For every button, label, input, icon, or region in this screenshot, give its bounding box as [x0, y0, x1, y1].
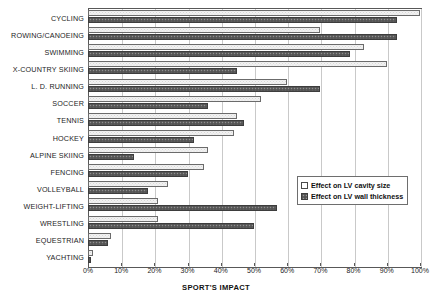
bar-cavity-size: [88, 96, 261, 102]
bar-cavity-size: [88, 130, 234, 136]
bar-wall-thickness: [88, 86, 320, 92]
bar-cavity-size: [88, 27, 320, 33]
category-label: VOLLEYBALL: [37, 184, 84, 193]
bar-wall-thickness: [88, 223, 254, 229]
bar-wall-thickness: [88, 120, 244, 126]
x-tick-label: 30%: [181, 267, 195, 274]
bar-wall-thickness: [88, 205, 277, 211]
bar-cavity-size: [88, 147, 208, 153]
bar-row: [88, 232, 420, 249]
x-tick-label: 60%: [280, 267, 294, 274]
x-tick-label: 100%: [411, 267, 429, 274]
bar-row: [88, 215, 420, 232]
bar-cavity-size: [88, 198, 158, 204]
x-tick-label: 70%: [313, 267, 327, 274]
bar-wall-thickness: [88, 137, 194, 143]
x-tick-label: 40%: [214, 267, 228, 274]
bar-cavity-size: [88, 61, 387, 67]
bar-row: [88, 26, 420, 43]
legend-item-wall: Effect on LV wall thickness: [301, 191, 403, 201]
bar-chart: CYCLINGROWING/CANOEINGSWIMMINGX-COUNTRY …: [0, 0, 432, 302]
bar-cavity-size: [88, 250, 93, 256]
x-tick-mark: [254, 263, 255, 266]
x-axis-tick-labels: 0%10%20%30%40%50%60%70%80%90%100%: [0, 267, 432, 279]
x-tick-label: 0%: [83, 267, 93, 274]
category-label: YACHTING: [46, 253, 84, 262]
category-label: ALPINE SKIING: [30, 150, 84, 159]
legend-item-cavity: Effect on LV cavity size: [301, 180, 403, 190]
category-label: X-COUNTRY SKIING: [13, 64, 84, 73]
bar-row: [88, 146, 420, 163]
chart-legend: Effect on LV cavity size Effect on LV wa…: [297, 176, 408, 205]
category-label: FENCING: [51, 167, 84, 176]
x-tick-label: 50%: [247, 267, 261, 274]
bar-cavity-size: [88, 233, 111, 239]
x-tick-mark: [88, 263, 89, 266]
category-label: WEIGHT-LIFTING: [24, 202, 84, 211]
category-label: SWIMMING: [44, 47, 84, 56]
bar-rows: [88, 9, 420, 266]
x-tick-label: 90%: [380, 267, 394, 274]
x-tick-mark: [121, 263, 122, 266]
bar-wall-thickness: [88, 257, 91, 263]
category-label: TENNIS: [57, 116, 84, 125]
category-axis-labels: CYCLINGROWING/CANOEINGSWIMMINGX-COUNTRY …: [0, 9, 84, 266]
x-tick-mark: [387, 263, 388, 266]
x-tick-label: 80%: [347, 267, 361, 274]
bar-cavity-size: [88, 216, 158, 222]
bar-wall-thickness: [88, 17, 397, 23]
category-label: CYCLING: [51, 13, 84, 22]
bar-cavity-size: [88, 164, 204, 170]
category-label: WRESTLING: [40, 219, 84, 228]
x-tick-mark: [154, 263, 155, 266]
bar-row: [88, 60, 420, 77]
x-tick-mark: [188, 263, 189, 266]
x-tick-mark: [287, 263, 288, 266]
x-tick-label: 20%: [147, 267, 161, 274]
x-tick-label: 10%: [114, 267, 128, 274]
x-tick-mark: [320, 263, 321, 266]
bar-row: [88, 129, 420, 146]
bar-wall-thickness: [88, 34, 397, 40]
legend-label-cavity: Effect on LV cavity size: [311, 181, 390, 190]
bar-row: [88, 78, 420, 95]
bar-row: [88, 9, 420, 26]
bar-row: [88, 112, 420, 129]
legend-label-wall: Effect on LV wall thickness: [311, 192, 403, 201]
bar-wall-thickness: [88, 188, 148, 194]
x-tick-mark: [354, 263, 355, 266]
bar-cavity-size: [88, 181, 168, 187]
bar-row: [88, 95, 420, 112]
x-tick-mark: [420, 263, 421, 266]
bar-row: [88, 43, 420, 60]
x-tick-mark: [221, 263, 222, 266]
bar-wall-thickness: [88, 240, 108, 246]
category-label: SOCCER: [52, 99, 84, 108]
gridline: [421, 9, 422, 267]
bar-wall-thickness: [88, 51, 350, 57]
category-label: L. D. RUNNING: [31, 82, 84, 91]
bar-cavity-size: [88, 10, 420, 16]
bar-wall-thickness: [88, 171, 188, 177]
filled-square-swatch-icon: [301, 193, 308, 200]
bar-wall-thickness: [88, 68, 237, 74]
open-square-swatch-icon: [301, 182, 308, 189]
category-label: EQUESTRIAN: [36, 236, 84, 245]
category-label: ROWING/CANOEING: [11, 30, 84, 39]
bar-wall-thickness: [88, 154, 134, 160]
bar-wall-thickness: [88, 103, 208, 109]
x-axis-title: SPORT'S IMPACT: [0, 283, 432, 292]
bar-cavity-size: [88, 44, 364, 50]
category-label: HOCKEY: [53, 133, 84, 142]
bar-cavity-size: [88, 113, 237, 119]
bar-cavity-size: [88, 79, 287, 85]
